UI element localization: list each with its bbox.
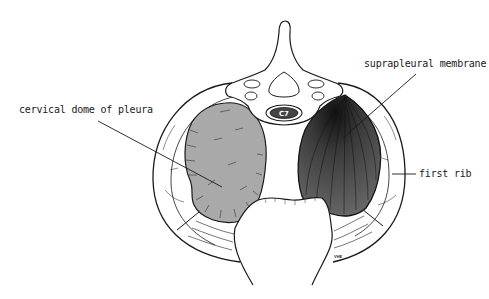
label-cervical-dome-of-pleura: cervical dome of pleura bbox=[19, 104, 153, 116]
vertebra-label: C7 bbox=[279, 110, 289, 118]
label-suprapleural-membrane: suprapleural membrane bbox=[364, 58, 486, 70]
anatomy-diagram: C7 cervical dome of pleura suprapleural … bbox=[0, 0, 489, 299]
label-first-rib: first rib bbox=[419, 168, 471, 180]
artist-signature: VHE bbox=[334, 254, 342, 259]
thoracic-inlet-drawing: C7 bbox=[0, 0, 489, 299]
trachea bbox=[234, 198, 332, 285]
